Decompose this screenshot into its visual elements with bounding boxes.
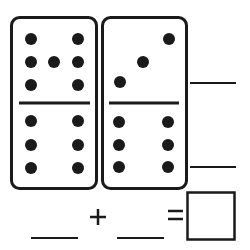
pip-dot: [113, 161, 125, 173]
plus-sign: [90, 209, 106, 225]
domino-left-top-pips: [25, 33, 84, 91]
pip-dot: [163, 33, 175, 45]
pip-dot: [72, 79, 84, 91]
domino-worksheet: [0, 0, 250, 250]
pip-dot: [162, 116, 174, 128]
pip-dot: [25, 79, 37, 91]
pip-dot: [72, 139, 84, 151]
pip-dot: [25, 33, 37, 45]
pip-dot: [48, 56, 60, 68]
pip-dot: [162, 139, 174, 151]
pip-dot: [72, 56, 84, 68]
equals-sign: [168, 211, 183, 219]
domino-right-bottom-pips: [113, 116, 174, 173]
domino-right: [103, 18, 187, 189]
sum-answer-box[interactable]: [188, 193, 235, 240]
pip-dot: [25, 162, 37, 174]
pip-dot: [72, 33, 84, 45]
domino-right-top-pips: [114, 33, 175, 88]
pip-dot: [113, 139, 125, 151]
pip-dot: [72, 162, 84, 174]
domino-left: [12, 18, 97, 189]
domino-left-bottom-pips: [25, 115, 84, 174]
pip-dot: [114, 76, 126, 88]
pip-dot: [25, 56, 37, 68]
pip-dot: [72, 115, 84, 127]
pip-dot: [25, 139, 37, 151]
pip-dot: [113, 116, 125, 128]
pip-dot: [25, 115, 37, 127]
pip-dot: [137, 56, 149, 68]
pip-dot: [162, 161, 174, 173]
